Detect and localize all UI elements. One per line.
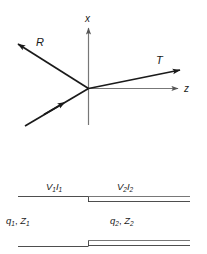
axes-group (89, 28, 179, 125)
physics-diagram: R T x z V1I1 q1, Z1 (0, 0, 207, 254)
z-axis-label: z (183, 83, 189, 94)
figure-root: R T x z V1I1 q1, Z1 (0, 0, 207, 254)
transmitted-ray (89, 70, 181, 89)
region2-vi-label: V2I2 (117, 181, 134, 193)
reflected-ray (18, 44, 89, 89)
reflected-ray-label: R (36, 36, 44, 48)
region1-vi-label: V1I1 (46, 181, 63, 193)
region2-z-subscript: 2 (129, 220, 134, 227)
region2-qz-label: q2, Z2 (110, 215, 134, 227)
x-axis-label: x (84, 13, 91, 24)
region2-i-subscript: 2 (129, 186, 134, 193)
incident-ray-arrow (44, 104, 62, 115)
transmitted-ray-label: T (156, 54, 164, 66)
region1-qz-label: q1, Z1 (6, 215, 30, 227)
upper-waveguide-group (18, 197, 190, 203)
region1-i-subscript: 1 (59, 186, 63, 193)
region1-z-subscript: 1 (26, 220, 30, 227)
lower-waveguide-group (18, 241, 190, 247)
